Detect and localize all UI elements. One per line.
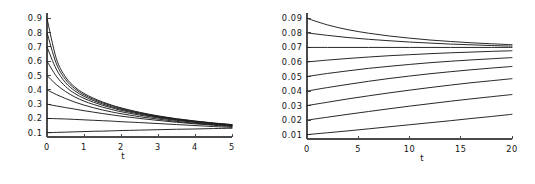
y-tick-label: 0.06: [282, 57, 303, 67]
solution-curve: [307, 33, 512, 46]
solution-curve: [47, 18, 232, 124]
solution-curve: [307, 95, 512, 121]
y-tick-label: 0.4: [28, 85, 43, 95]
y-tick-label: 0.8: [28, 28, 43, 38]
solution-curve: [307, 79, 512, 106]
y-tick-label: 0.3: [28, 99, 43, 109]
x-axis-label: t: [121, 151, 125, 161]
y-tick-label: 0.02: [282, 115, 303, 125]
x-tick-label: 20: [506, 144, 518, 154]
solution-curve: [47, 128, 232, 132]
solution-curve: [47, 47, 232, 125]
y-tick-label: 0.08: [282, 28, 303, 38]
figure-root: 0.10.20.30.40.50.60.70.80.9012345t 0.010…: [0, 0, 535, 184]
solution-curve: [307, 114, 512, 134]
x-tick-label: 5: [355, 144, 361, 154]
y-tick-label: 0.2: [28, 113, 43, 123]
x-tick-label: 0: [44, 142, 50, 152]
x-tick-label: 3: [155, 142, 161, 152]
line-chart-right: 0.010.020.030.040.050.060.070.080.090510…: [267, 0, 535, 184]
x-tick-label: 10: [404, 144, 416, 154]
y-tick-label: 0.5: [28, 71, 43, 81]
y-tick-label: 0.04: [282, 86, 303, 96]
y-tick-label: 0.09: [282, 13, 303, 23]
solution-curve: [307, 51, 512, 62]
x-tick-label: 0: [304, 144, 310, 154]
solution-curve: [47, 61, 232, 125]
y-tick-label: 0.6: [28, 56, 43, 66]
x-tick-label: 1: [81, 142, 87, 152]
y-tick-label: 0.1: [28, 128, 43, 138]
solution-curve: [307, 58, 512, 77]
y-tick-label: 0.05: [282, 72, 303, 82]
x-tick-label: 4: [192, 142, 198, 152]
x-tick-label: 15: [455, 144, 467, 154]
solution-curve: [47, 33, 232, 125]
solution-curve: [307, 18, 512, 44]
y-tick-label: 0.9: [28, 13, 43, 23]
y-tick-label: 0.01: [282, 130, 303, 140]
line-chart-left: 0.10.20.30.40.50.60.70.80.9012345t: [0, 0, 267, 184]
y-tick-label: 0.07: [282, 42, 303, 52]
y-tick-label: 0.03: [282, 101, 303, 111]
x-tick-label: 5: [229, 142, 235, 152]
solution-curve: [307, 66, 512, 91]
y-tick-label: 0.7: [28, 42, 43, 52]
chart-panel-right: 0.010.020.030.040.050.060.070.080.090510…: [267, 0, 535, 184]
x-axis-label: t: [420, 153, 424, 163]
chart-panel-left: 0.10.20.30.40.50.60.70.80.9012345t: [0, 0, 267, 184]
solution-curve: [47, 90, 232, 126]
